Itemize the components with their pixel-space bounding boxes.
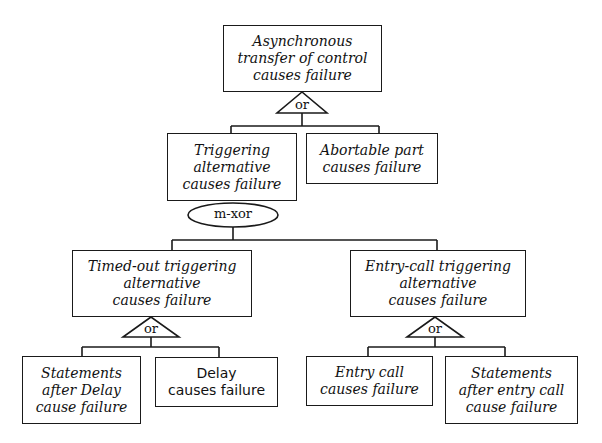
root-or-gate-label: or: [287, 98, 317, 112]
triggering-alternative-box: Triggering alternative causes failure: [167, 133, 297, 201]
entry-call-or-gate-label: or: [420, 322, 450, 336]
statements-after-delay-box: Statements after Delay cause failure: [22, 356, 141, 424]
abortable-part-box: Abortable part causes failure: [306, 133, 438, 184]
statements-after-entry-call-box: Statements after entry call cause failur…: [445, 356, 578, 424]
root-event-box: Asynchronous transfer of control causes …: [223, 25, 382, 92]
timed-out-triggering-box: Timed-out triggering alternative causes …: [72, 250, 252, 317]
delay-causes-failure-box: Delay causes failure: [155, 357, 278, 407]
entry-call-triggering-box: Entry-call triggering alternative causes…: [350, 250, 526, 317]
timed-out-or-gate-label: or: [136, 322, 166, 336]
fault-tree-diagram: or m-xor or or Asynchronous transfer of …: [0, 0, 602, 443]
m-xor-gate-label: m-xor: [198, 207, 268, 221]
entry-call-causes-failure-box: Entry call causes failure: [306, 356, 433, 406]
